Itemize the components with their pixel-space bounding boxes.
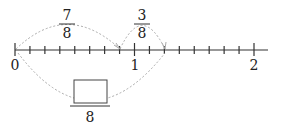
number-line-diagram: 0 1 2 7 8 3 8 8 <box>0 0 281 130</box>
fraction-numerator: 3 <box>138 7 147 23</box>
answer-blank-box[interactable] <box>74 80 107 103</box>
axis-label-0: 0 <box>11 57 20 73</box>
fraction-denominator: 8 <box>86 109 95 125</box>
fraction-denominator: 8 <box>138 25 147 41</box>
axis-label-2: 2 <box>250 57 259 73</box>
fraction-numerator: 7 <box>63 7 72 23</box>
number-line-axis <box>15 43 268 56</box>
fraction-denominator: 8 <box>63 25 72 41</box>
axis-label-1: 1 <box>131 57 140 73</box>
